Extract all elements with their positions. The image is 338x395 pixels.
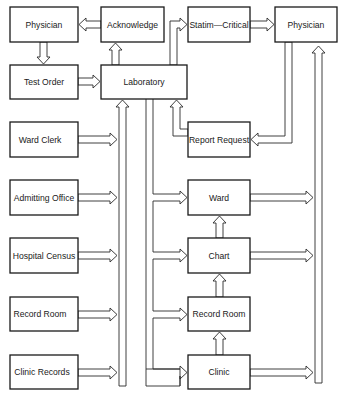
node-acknowledge: Acknowledge — [101, 7, 164, 42]
arrow-record-room-to-chart — [213, 274, 226, 297]
arrow-statim-to-physician — [250, 18, 274, 31]
arrow-report-request-to-laboratory — [170, 100, 188, 136]
arrow-admitting-office-to-collector — [78, 191, 117, 204]
node-label: Laboratory — [123, 77, 165, 87]
arrow-record-room-to-collector — [78, 308, 117, 321]
node-laboratory: Laboratory — [101, 65, 187, 99]
pipe-left-collector-to-laboratory — [116, 100, 129, 386]
node-label: Statim—Critical — [189, 20, 248, 30]
arrow-physician-to-report-request — [251, 42, 292, 146]
arrow-laboratory-to-acknowledge — [109, 43, 122, 65]
arrow-hospital-census-to-collector — [78, 249, 117, 262]
node-physician-left: Physician — [10, 7, 78, 42]
node-label: Record Room — [192, 309, 245, 319]
node-label: Clinic Records — [14, 367, 69, 377]
node-label: Ward — [209, 193, 229, 203]
node-test-order: Test Order — [10, 65, 78, 99]
node-label: Acknowledge — [107, 20, 158, 30]
arrow-acknowledge-to-physician — [79, 18, 101, 31]
node-ward-clerk: Ward Clerk — [10, 122, 78, 157]
node-record-room-left: Record Room — [10, 297, 78, 331]
node-label: Hospital Census — [13, 251, 76, 261]
arrow-physician-to-test-order — [37, 42, 50, 64]
node-report-request: Report Request — [188, 122, 250, 157]
lab-workflow-diagram: Physician Acknowledge Statim—Critical Ph… — [0, 0, 338, 395]
node-chart: Chart — [188, 238, 250, 273]
node-hospital-census: Hospital Census — [10, 238, 78, 273]
node-label: Test Order — [24, 77, 64, 87]
node-label: Clinic — [208, 367, 230, 377]
arrow-clinic-records-to-collector — [78, 366, 117, 379]
node-label: Physician — [288, 20, 325, 30]
node-admitting-office: Admitting Office — [10, 180, 78, 215]
arrow-ward-to-collector — [250, 191, 313, 204]
node-label: Admitting Office — [14, 193, 75, 203]
node-ward: Ward — [188, 180, 250, 215]
arrow-ward-clerk-to-collector — [78, 133, 117, 146]
node-physician-right: Physician — [275, 7, 337, 42]
pipe-right-collector-to-physician — [312, 46, 325, 383]
node-record-room-right: Record Room — [188, 297, 250, 331]
arrow-test-order-to-laboratory — [78, 75, 100, 88]
node-clinic-records: Clinic Records — [10, 355, 78, 389]
node-clinic: Clinic — [188, 355, 250, 389]
arrow-chart-to-collector — [250, 249, 313, 262]
node-label: Ward Clerk — [19, 135, 62, 145]
node-label: Chart — [208, 251, 230, 261]
arrow-laboratory-to-statim — [170, 18, 187, 65]
pipe-laboratory-distributor — [146, 99, 187, 386]
arrow-chart-to-ward — [213, 216, 226, 238]
node-label: Report Request — [189, 135, 250, 145]
arrow-clinic-to-collector — [250, 366, 313, 379]
arrow-clinic-to-record-room — [213, 332, 226, 355]
node-label: Physician — [26, 20, 63, 30]
node-statim-critical: Statim—Critical — [188, 7, 250, 42]
node-label: Record Room — [13, 309, 66, 319]
